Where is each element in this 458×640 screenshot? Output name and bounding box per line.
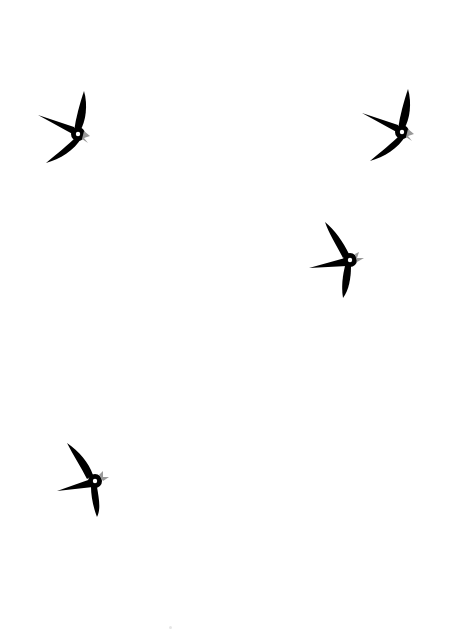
background-speck bbox=[169, 626, 172, 629]
flying-bird-3[interactable] bbox=[309, 222, 365, 298]
bird-icon bbox=[57, 443, 113, 519]
bird-icon bbox=[38, 91, 94, 167]
bird-icon bbox=[309, 222, 365, 298]
flying-bird-4[interactable] bbox=[57, 443, 113, 519]
game-canvas[interactable] bbox=[0, 0, 458, 640]
flying-bird-1[interactable] bbox=[38, 91, 94, 167]
bird-icon bbox=[362, 89, 418, 165]
flying-bird-2[interactable] bbox=[362, 89, 418, 165]
